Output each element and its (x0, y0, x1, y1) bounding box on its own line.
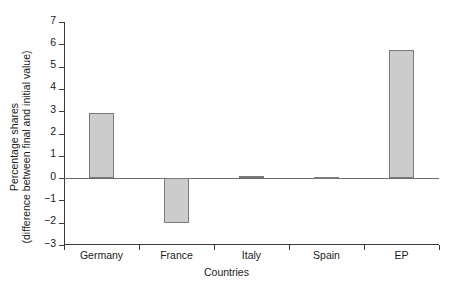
y-tick-label: 3 (50, 104, 56, 115)
x-category-label-france: France (160, 250, 193, 261)
x-category-label-italy: Italy (242, 250, 261, 261)
x-axis-line (64, 244, 439, 245)
plot-area: −3−2−101234567 (64, 22, 439, 245)
y-tick-mark (59, 111, 64, 112)
y-tick-mark (59, 22, 64, 23)
y-tick-label: −1 (44, 193, 56, 204)
y-tick: 3 (59, 111, 64, 112)
x-tick-mark (364, 245, 365, 250)
y-axis-line (64, 22, 65, 245)
y-tick-label: 5 (50, 59, 56, 70)
bar-ep[interactable] (389, 50, 415, 178)
bar-chart-figure: Percentage shares (difference between fi… (0, 0, 453, 292)
y-tick-mark (59, 44, 64, 45)
y-tick: 7 (59, 22, 64, 23)
y-tick: 4 (59, 89, 64, 90)
y-tick-label: −2 (44, 215, 56, 226)
y-tick: 0 (59, 178, 64, 179)
x-category-label-ep: EP (394, 250, 408, 261)
bar-germany[interactable] (89, 113, 115, 178)
y-tick-label: 7 (50, 15, 56, 26)
y-tick: −2 (59, 223, 64, 224)
x-category-label-germany: Germany (80, 250, 123, 261)
x-tick-mark (139, 245, 140, 250)
y-tick-mark (59, 156, 64, 157)
y-tick-label: 0 (50, 171, 56, 182)
y-tick: 2 (59, 134, 64, 135)
y-axis-title: Percentage shares (difference between fi… (0, 0, 40, 292)
y-tick-label: −3 (44, 238, 56, 249)
y-tick: 1 (59, 156, 64, 157)
bar-france[interactable] (164, 178, 190, 223)
x-tick-mark (214, 245, 215, 250)
bar-spain[interactable] (314, 177, 340, 179)
y-tick-label: 6 (50, 37, 56, 48)
x-tick-mark (439, 245, 440, 250)
y-tick-mark (59, 67, 64, 68)
x-tick-mark (289, 245, 290, 250)
x-category-label-spain: Spain (313, 250, 340, 261)
y-tick: −1 (59, 200, 64, 201)
y-tick-mark (59, 134, 64, 135)
x-tick-mark (64, 245, 65, 250)
y-axis-title-line-1: Percentage shares (8, 103, 20, 191)
y-tick-mark (59, 89, 64, 90)
x-axis-title: Countries (0, 267, 453, 278)
y-tick: 6 (59, 44, 64, 45)
y-tick-mark (59, 200, 64, 201)
bar-italy[interactable] (239, 176, 265, 178)
y-tick-mark (59, 178, 64, 179)
y-tick-label: 2 (50, 126, 56, 137)
y-tick: 5 (59, 67, 64, 68)
y-tick-mark (59, 223, 64, 224)
y-tick-label: 4 (50, 81, 56, 92)
y-axis-title-line-2: (difference between final and initial va… (20, 51, 32, 244)
y-tick-label: 1 (50, 148, 56, 159)
